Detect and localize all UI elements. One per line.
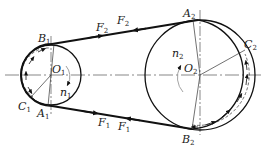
force-arrow-f1-left <box>128 119 140 121</box>
sliding-arrow-small-2 <box>29 58 33 64</box>
label-f1-left: F1 <box>97 116 110 130</box>
label-a2: A2 <box>182 7 195 21</box>
radius-o2-a2 <box>193 20 200 75</box>
sliding-arrow-small-4 <box>28 87 31 92</box>
label-n2: n2 <box>172 47 184 61</box>
label-f2-left: F2 <box>95 21 108 35</box>
rotation-arrow-n2 <box>177 67 183 92</box>
label-b1: B1 <box>37 32 51 46</box>
radius-o2-b2 <box>192 75 200 129</box>
sliding-arrow-small-3 <box>38 49 44 52</box>
label-o1: O1 <box>52 63 66 77</box>
label-a1: A1 <box>36 107 49 121</box>
label-n1: n1 <box>60 86 72 100</box>
sliding-arrow-large-5 <box>246 62 247 70</box>
radius-o2-c2 <box>200 50 245 75</box>
diagram-canvas: B1 A1 C1 O1 n1 A2 B2 C2 O2 n2 F2 F2 F1 F… <box>0 0 265 148</box>
radius-o1-a1 <box>48 75 51 106</box>
force-arrow-f2-left <box>135 29 146 31</box>
label-c1: C1 <box>18 100 31 114</box>
label-b2: B2 <box>181 133 195 147</box>
sliding-arc-small <box>22 48 50 97</box>
label-f2-right: F2 <box>116 14 129 28</box>
label-f1-right: F1 <box>117 120 130 134</box>
belt-drive-diagram: B1 A1 C1 O1 n1 A2 B2 C2 O2 n2 F2 F2 F1 F… <box>0 0 265 148</box>
sliding-arrow-large-4 <box>246 76 247 85</box>
label-o2: O2 <box>184 62 198 76</box>
label-c2: C2 <box>244 38 257 52</box>
radius-o1-c1 <box>31 75 51 97</box>
